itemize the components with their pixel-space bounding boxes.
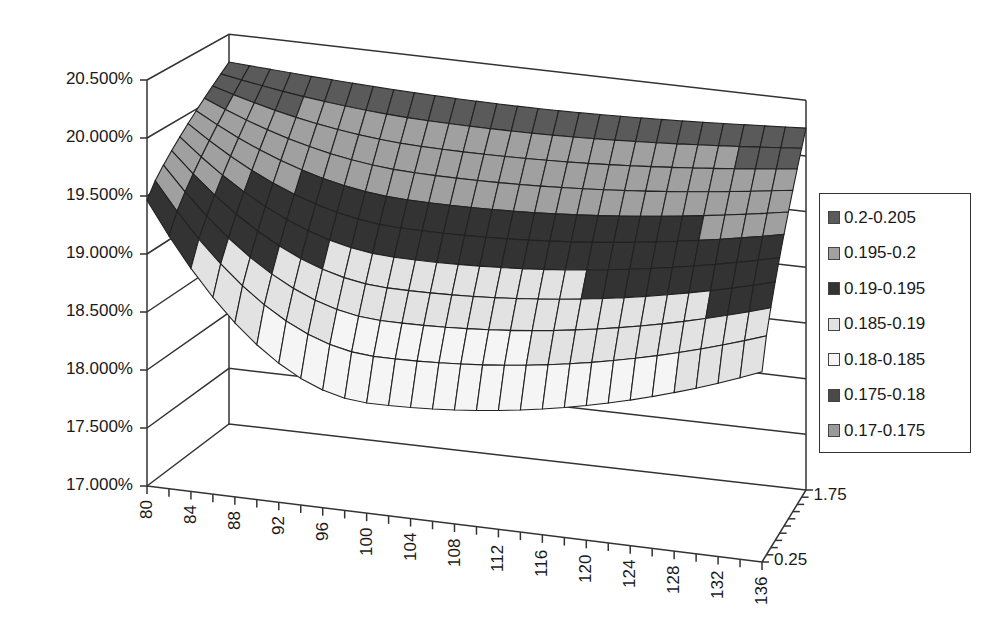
legend-label: 0.19-0.195 [844, 279, 925, 299]
legend-item: 0.17-0.175 [828, 413, 970, 449]
legend-item: 0.175-0.18 [828, 378, 970, 414]
legend-item: 0.2-0.205 [828, 200, 970, 236]
y-tick-label: 20.000% [0, 127, 133, 147]
x-tick-label: 92 [269, 516, 289, 535]
y-tick-label: 18.000% [0, 359, 133, 379]
chart-legend: 0.2-0.2050.195-0.20.19-0.1950.185-0.190.… [819, 193, 971, 453]
legend-label: 0.17-0.175 [844, 421, 925, 441]
legend-swatch-icon [828, 282, 840, 295]
legend-item: 0.18-0.185 [828, 342, 970, 378]
x-tick-label: 80 [137, 500, 157, 519]
x-tick-label: 116 [532, 550, 552, 577]
x-tick-label: 132 [708, 571, 728, 599]
legend-label: 0.185-0.19 [844, 314, 925, 334]
x-tick-label: 100 [357, 527, 377, 555]
depth-tick-label: 1.75 [814, 485, 847, 505]
x-tick-label: 96 [313, 522, 333, 541]
legend-swatch-icon [828, 247, 840, 260]
x-tick-label: 124 [620, 560, 640, 588]
legend-swatch-icon [828, 318, 840, 331]
legend-label: 0.175-0.18 [844, 385, 925, 405]
x-tick-label: 112 [488, 545, 508, 572]
y-tick-label: 17.000% [0, 475, 133, 495]
x-tick-label: 128 [664, 565, 684, 593]
y-tick-label: 17.500% [0, 417, 133, 437]
legend-label: 0.2-0.205 [844, 208, 916, 228]
legend-item: 0.185-0.19 [828, 307, 970, 343]
x-tick-label: 84 [181, 506, 201, 525]
y-tick-label: 19.000% [0, 243, 133, 263]
y-tick-label: 18.500% [0, 301, 133, 321]
depth-tick-label: 0.25 [774, 550, 807, 570]
legend-swatch-icon [828, 211, 840, 224]
legend-swatch-icon [828, 389, 840, 402]
legend-swatch-icon [828, 353, 840, 366]
y-tick-label: 20.500% [0, 69, 133, 89]
x-tick-label: 120 [576, 554, 596, 582]
legend-item: 0.195-0.2 [828, 236, 970, 272]
x-tick-label: 108 [445, 538, 465, 566]
y-tick-label: 19.500% [0, 185, 133, 205]
x-tick-label: 104 [401, 533, 421, 561]
legend-label: 0.195-0.2 [844, 243, 916, 263]
x-tick-label: 88 [225, 511, 245, 530]
x-tick-label: 136 [752, 576, 772, 604]
legend-label: 0.18-0.185 [844, 350, 925, 370]
legend-item: 0.19-0.195 [828, 271, 970, 307]
legend-swatch-icon [828, 424, 840, 437]
